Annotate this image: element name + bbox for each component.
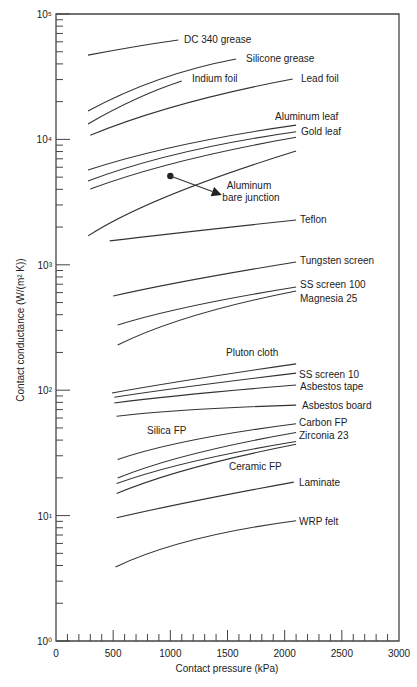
x-tick-label: 500 bbox=[105, 648, 122, 659]
curve-pluton-cloth bbox=[112, 364, 296, 393]
curve-lead-foil bbox=[90, 79, 292, 135]
curve-label: Silicone grease bbox=[246, 53, 315, 64]
y-tick-label: 10² bbox=[38, 385, 53, 396]
curve-label: Zirconia 23 bbox=[299, 430, 349, 441]
curve-gold-leaf bbox=[88, 132, 296, 181]
curve-label: Ceramic FP bbox=[229, 461, 282, 472]
curve-label: Asbestos tape bbox=[300, 381, 364, 392]
y-axis-label: Contact conductance (W/(m² K)) bbox=[15, 258, 26, 401]
x-axis-label: Contact pressure (kPa) bbox=[176, 663, 279, 674]
curve-label: Magnesia 25 bbox=[300, 293, 358, 304]
curve-ss-screen-100 bbox=[118, 287, 296, 325]
curves bbox=[88, 40, 296, 567]
curve-label: Teflon bbox=[300, 214, 327, 225]
curve-indium-foil bbox=[88, 81, 182, 124]
axes: 05001000150020002500300010⁰10¹10²10³10⁴1… bbox=[37, 9, 411, 659]
x-tick-label: 2500 bbox=[331, 648, 354, 659]
curve-ss-screen-10 bbox=[114, 373, 296, 397]
curve-label: Aluminum leaf bbox=[275, 111, 339, 122]
y-tick-label: 10⁵ bbox=[37, 9, 52, 20]
curve-label: Tungsten screen bbox=[300, 255, 374, 266]
curve-teflon bbox=[110, 220, 296, 241]
x-tick-label: 2000 bbox=[274, 648, 297, 659]
curve-label: Laminate bbox=[299, 477, 341, 488]
curve-wrp-felt bbox=[116, 521, 297, 567]
curve-aluminum-leaf bbox=[88, 125, 296, 170]
curve-magnesia-25 bbox=[118, 291, 296, 345]
curve-label: Asbestos board bbox=[302, 400, 372, 411]
curve-label: Pluton cloth bbox=[226, 347, 278, 358]
y-tick-label: 10⁴ bbox=[37, 134, 52, 145]
curve-label: DC 340 grease bbox=[184, 34, 252, 45]
contact-conductance-chart: 05001000150020002500300010⁰10¹10²10³10⁴1… bbox=[0, 0, 417, 687]
curve-dc-340-grease bbox=[88, 40, 178, 55]
curve-label: Carbon FP bbox=[299, 417, 348, 428]
y-tick-label: 10⁰ bbox=[37, 636, 52, 647]
curve-label: Lead foil bbox=[301, 73, 339, 84]
curve-asbestos-board bbox=[117, 405, 297, 416]
curve-laminate bbox=[117, 482, 294, 518]
x-tick-label: 1000 bbox=[159, 648, 182, 659]
curve-label: Silica FP bbox=[147, 425, 187, 436]
curve-silicone-grease bbox=[88, 59, 236, 111]
curve-label: Indium foil bbox=[192, 73, 238, 84]
x-tick-label: 3000 bbox=[388, 648, 411, 659]
curve-label: Gold leaf bbox=[301, 126, 341, 137]
y-tick-label: 10³ bbox=[38, 260, 53, 271]
x-tick-label: 1500 bbox=[216, 648, 239, 659]
plot-frame bbox=[56, 14, 399, 641]
y-tick-label: 10¹ bbox=[38, 511, 53, 522]
curve-tungsten-screen bbox=[113, 262, 296, 296]
curve-labels: DC 340 greaseSilicone greaseIndium foilL… bbox=[147, 34, 374, 527]
curve-carbon-fp bbox=[118, 424, 296, 460]
curve-label: SS screen 10 bbox=[299, 369, 359, 380]
curve-label: WRP felt bbox=[299, 516, 338, 527]
curve-label: bare junction bbox=[222, 192, 279, 203]
curve-label: Aluminum bbox=[227, 180, 271, 191]
x-tick-label: 0 bbox=[53, 648, 59, 659]
annotation-arrow-line bbox=[170, 176, 212, 192]
curve-label: SS screen 100 bbox=[300, 279, 366, 290]
